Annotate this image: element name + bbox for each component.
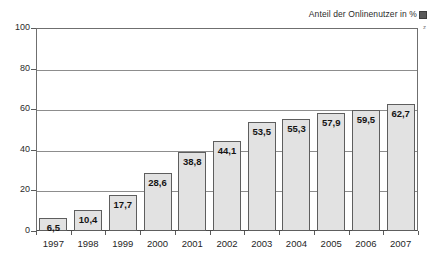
- bar-value-label: 10,4: [75, 214, 101, 225]
- y-axis-tick-label: 20: [2, 184, 30, 194]
- bar[interactable]: 17,7: [109, 195, 137, 231]
- y-axis-tick-label: 40: [2, 144, 30, 154]
- bar[interactable]: 10,4: [74, 210, 102, 231]
- x-axis-tick-mark: [349, 231, 350, 235]
- x-axis-tick-label: 1998: [71, 238, 106, 249]
- bar-value-label: 38,8: [179, 156, 205, 167]
- x-axis-tick-mark: [140, 231, 141, 235]
- x-axis-tick-mark: [244, 231, 245, 235]
- x-axis-tick-mark: [175, 231, 176, 235]
- y-axis-tick-label: 80: [2, 63, 30, 73]
- x-axis-tick-label: 2003: [244, 238, 279, 249]
- x-axis-tick-mark: [71, 231, 72, 235]
- x-axis-tick-label: 1999: [105, 238, 140, 249]
- x-axis-tick-label: 2000: [140, 238, 175, 249]
- bar-value-label: 55,3: [283, 123, 309, 134]
- bar-value-label: 44,1: [214, 145, 240, 156]
- x-axis-tick-label: 2007: [383, 238, 418, 249]
- bars-layer: 6,510,417,728,638,844,153,555,357,959,56…: [36, 28, 418, 231]
- bar[interactable]: 38,8: [178, 152, 206, 231]
- x-axis-tick-label: 1997: [36, 238, 71, 249]
- x-axis-tick-mark: [36, 231, 37, 235]
- x-axis-tick-mark: [383, 231, 384, 235]
- bar-value-label: 17,7: [110, 199, 136, 210]
- y-axis-tick-label: 60: [2, 103, 30, 113]
- x-axis-tick-label: 2006: [349, 238, 384, 249]
- bar-value-label: 28,6: [145, 177, 171, 188]
- x-axis-labels: 1997199819992000200120022003200420052006…: [36, 238, 418, 254]
- y-axis-tick-label: 0: [2, 225, 30, 235]
- bar[interactable]: 55,3: [282, 119, 310, 231]
- x-axis-tick-label: 2004: [279, 238, 314, 249]
- x-axis-tick-label: 2001: [175, 238, 210, 249]
- y-axis-tick-label: 100: [2, 22, 30, 32]
- x-axis-tick-mark: [105, 231, 106, 235]
- bar-value-label: 62,7: [388, 108, 414, 119]
- legend-swatch-fragment-icon: [419, 11, 427, 19]
- bar-value-label: 59,5: [353, 114, 379, 125]
- bar[interactable]: 59,5: [352, 110, 380, 231]
- x-axis-tick-label: 2005: [314, 238, 349, 249]
- edge-glyph-fragment: z: [423, 24, 426, 30]
- bar-value-label: 57,9: [318, 117, 344, 128]
- bar-chart: Anteil der Onlinenutzer in % 02040608010…: [0, 0, 429, 264]
- bar[interactable]: 57,9: [317, 113, 345, 231]
- bar-value-label: 6,5: [40, 222, 66, 233]
- bar[interactable]: 53,5: [248, 122, 276, 231]
- bar[interactable]: 6,5: [39, 218, 67, 231]
- x-axis-tick-mark: [314, 231, 315, 235]
- x-axis-tick-mark: [279, 231, 280, 235]
- bar-value-label: 53,5: [249, 126, 275, 137]
- x-axis-tick-label: 2002: [210, 238, 245, 249]
- bar[interactable]: 44,1: [213, 141, 241, 231]
- bar[interactable]: 28,6: [144, 173, 172, 231]
- x-axis-tick-mark: [210, 231, 211, 235]
- bar[interactable]: 62,7: [387, 104, 415, 231]
- x-axis-tick-mark: [418, 231, 419, 235]
